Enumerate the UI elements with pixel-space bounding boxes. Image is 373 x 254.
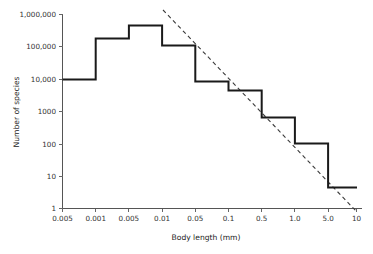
x-tick-label-7: 1.0 xyxy=(289,214,301,223)
x-tick-label-0: 0.005 xyxy=(52,214,73,223)
x-tick-label-1: 0.001 xyxy=(85,214,106,223)
x-tick-labels: 0.005 0.001 0.005 0.01 0.05 0.1 0.5 1.0 … xyxy=(52,214,361,223)
x-tick-label-5: 0.1 xyxy=(223,214,234,223)
species-step-histogram xyxy=(63,26,358,188)
x-tick-label-6: 0.5 xyxy=(256,214,267,223)
y-tick-label-1000: 1000 xyxy=(38,107,57,116)
y-tick-label-10: 10 xyxy=(47,172,57,181)
chart-figure: 1,000,000 100,000 10,000 1000 100 10 1 0… xyxy=(0,0,373,254)
species-body-length-chart: 1,000,000 100,000 10,000 1000 100 10 1 0… xyxy=(0,0,373,254)
y-tick-label-10000: 10,000 xyxy=(31,75,57,84)
y-tick-label-100: 100 xyxy=(42,140,56,149)
x-tick-label-3: 0.01 xyxy=(154,214,170,223)
x-tick-label-4: 0.05 xyxy=(187,214,203,223)
y-tick-label-100000: 100,000 xyxy=(26,42,56,51)
y-tick-label-1: 1 xyxy=(51,204,56,213)
x-tick-label-2: 0.005 xyxy=(119,214,140,223)
axes xyxy=(63,14,363,209)
x-tick-label-9: 10 xyxy=(352,214,362,223)
x-tick-label-8: 5.0 xyxy=(322,214,334,223)
x-axis-title: Body length (mm) xyxy=(172,233,241,242)
y-tick-label-1000000: 1,000,000 xyxy=(19,10,56,19)
y-axis-title: Number of species xyxy=(12,76,21,147)
y-tick-labels: 1,000,000 100,000 10,000 1000 100 10 1 xyxy=(19,10,56,213)
y-tick-marks xyxy=(59,15,63,209)
x-tick-marks xyxy=(63,209,357,213)
